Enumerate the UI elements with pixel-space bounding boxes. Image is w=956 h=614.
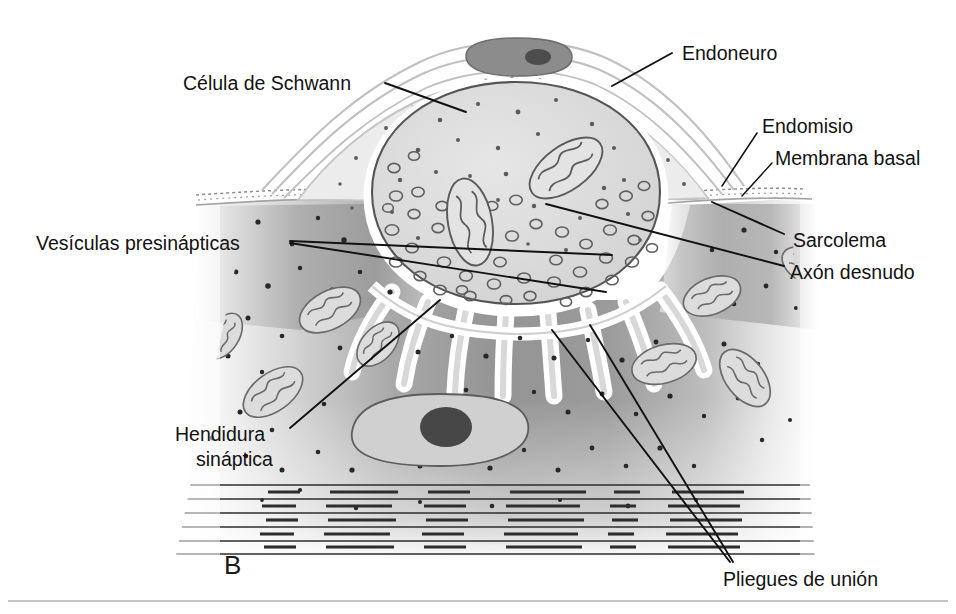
label-hendidura-line2: sináptica bbox=[196, 448, 273, 470]
label-sarcolema: Sarcolema bbox=[793, 229, 886, 251]
label-axon-desnudo: Axón desnudo bbox=[790, 261, 915, 283]
label-pliegues-de-union: Pliegues de unión bbox=[723, 568, 878, 590]
schwann-nucleus bbox=[466, 38, 572, 76]
right-edge-fade bbox=[800, 196, 870, 566]
figure-panel-b: Célula de Schwann Endoneuro Endomisio Me… bbox=[0, 0, 956, 614]
label-endomisio: Endomisio bbox=[762, 115, 853, 137]
label-hendidura-line1: Hendidura bbox=[175, 423, 265, 445]
axolemma bbox=[372, 82, 660, 304]
label-vesiculas-presinapticas: Vesículas presinápticas bbox=[36, 232, 240, 254]
axon-terminal bbox=[370, 82, 662, 310]
schwann-nucleolus bbox=[525, 49, 551, 65]
label-endoneuro: Endoneuro bbox=[682, 42, 778, 64]
muscle-nucleus bbox=[352, 394, 529, 466]
panel-letter: B bbox=[224, 550, 241, 580]
label-celula-de-schwann: Célula de Schwann bbox=[183, 72, 351, 94]
label-membrana-basal: Membrana basal bbox=[775, 147, 920, 169]
muscle-nucleolus bbox=[420, 407, 472, 447]
